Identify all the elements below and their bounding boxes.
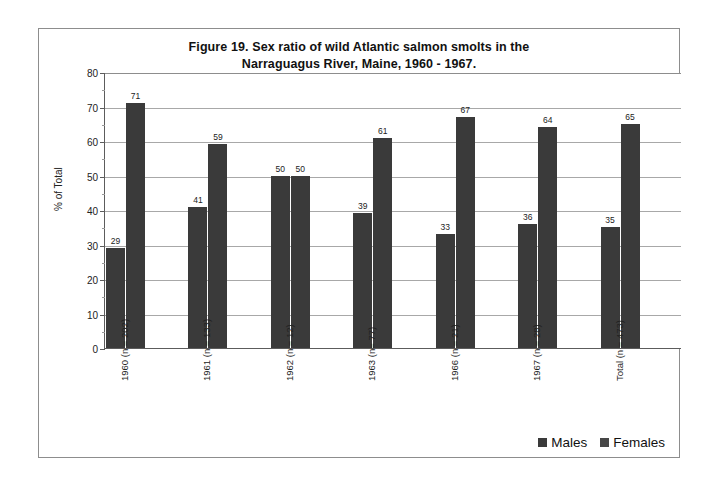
y-axis-tick-label: 20 [87, 275, 98, 286]
y-axis-tick-label: 10 [87, 309, 98, 320]
bar-value-label: 41 [193, 195, 202, 205]
bar-value-label: 36 [523, 212, 532, 222]
legend-swatch-females-icon [600, 438, 609, 447]
x-axis-label: 1967 (n = 28) [531, 324, 542, 381]
legend-label-females: Females [613, 436, 665, 450]
bar-females[interactable]: 71 [126, 103, 145, 348]
bar-value-label: 50 [276, 164, 285, 174]
y-axis-minor-tick [102, 297, 105, 298]
y-axis-title: % of Total [53, 167, 64, 211]
y-axis-tick-label: 50 [87, 171, 98, 182]
y-axis-tick-label: 40 [87, 206, 98, 217]
y-axis-tick [100, 246, 105, 247]
chart-title-line-1: Figure 19. Sex ratio of wild Atlantic sa… [39, 39, 679, 56]
bar-value-label: 35 [605, 215, 614, 225]
y-axis-tick [100, 280, 105, 281]
x-axis-label: 1963 (n= 77) [366, 327, 377, 381]
bar-females[interactable]: 50 [291, 176, 310, 349]
y-axis-minor-tick [102, 125, 105, 126]
x-axis-label: 1961 (n = 133) [201, 319, 212, 381]
x-axis-label: 1966 (n = 21) [449, 324, 460, 381]
chart-legend: Males Females [538, 436, 665, 450]
bar-females[interactable]: 64 [538, 127, 557, 348]
bar-group: 3367 [436, 73, 475, 348]
y-axis-tick [100, 142, 105, 143]
bar-group: 2971 [106, 73, 145, 348]
bar-females[interactable]: 65 [621, 124, 640, 348]
bar-value-label: 29 [111, 236, 120, 246]
bar-value-label: 65 [625, 112, 634, 122]
chart-title-line-2: Narraguagus River, Maine, 1960 - 1967. [39, 56, 679, 73]
chart-title: Figure 19. Sex ratio of wild Atlantic sa… [39, 39, 679, 73]
legend-item-females: Females [600, 436, 665, 450]
bar-value-label: 71 [131, 91, 140, 101]
y-axis-tick [100, 349, 105, 350]
x-axis-label: Total (n = 473) [614, 320, 625, 381]
y-axis-tick [100, 108, 105, 109]
figure-frame: Figure 19. Sex ratio of wild Atlantic sa… [38, 28, 680, 458]
bar-value-label: 59 [213, 132, 222, 142]
bar-group: 3565 [601, 73, 640, 348]
x-axis-label: 1962 (n = 12) [284, 324, 295, 381]
y-axis-tick-label: 80 [87, 68, 98, 79]
y-axis-tick [100, 211, 105, 212]
y-axis-tick-label: 70 [87, 102, 98, 113]
y-axis-minor-tick [102, 228, 105, 229]
legend-item-males: Males [538, 436, 587, 450]
y-axis-tick [100, 73, 105, 74]
bar-value-label: 50 [296, 164, 305, 174]
y-axis-minor-tick [102, 332, 105, 333]
bar-males[interactable]: 50 [271, 176, 290, 349]
bar-value-label: 67 [460, 105, 469, 115]
legend-swatch-males-icon [538, 438, 547, 447]
y-axis-minor-tick [102, 263, 105, 264]
bar-group: 3961 [353, 73, 392, 348]
bar-value-label: 39 [358, 201, 367, 211]
bar-females[interactable]: 61 [373, 138, 392, 348]
plot-area: 0102030405060708029714159505039613367366… [104, 73, 681, 349]
bar-value-label: 61 [378, 126, 387, 136]
legend-label-males: Males [551, 436, 587, 450]
y-axis-minor-tick [102, 159, 105, 160]
bar-value-label: 33 [440, 222, 449, 232]
y-axis-minor-tick [102, 90, 105, 91]
y-axis-tick-label: 0 [92, 344, 98, 355]
bar-group: 4159 [188, 73, 227, 348]
y-axis-tick [100, 315, 105, 316]
y-axis-tick-label: 60 [87, 137, 98, 148]
bar-females[interactable]: 59 [208, 144, 227, 348]
bar-group: 3664 [518, 73, 557, 348]
bar-group: 5050 [271, 73, 310, 348]
y-axis-minor-tick [102, 194, 105, 195]
y-axis-tick [100, 177, 105, 178]
bar-value-label: 64 [543, 115, 552, 125]
y-axis-tick-label: 30 [87, 240, 98, 251]
bar-females[interactable]: 67 [456, 117, 475, 348]
x-axis-label: 1960 (n = 202) [119, 319, 130, 381]
